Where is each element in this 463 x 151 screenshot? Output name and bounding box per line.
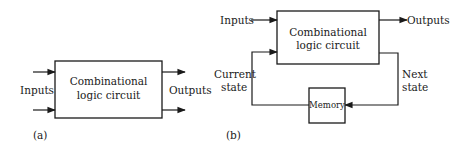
caption-a: (a)	[33, 129, 47, 141]
diagram-canvas: Combinational logic circuit Inputs Outpu…	[0, 0, 463, 151]
outputs-label-a: Outputs	[169, 84, 212, 96]
inputs-label-b: Inputs	[220, 14, 254, 26]
memory-label: Memory	[309, 100, 345, 110]
current-state-label-line2: state	[221, 81, 247, 93]
diagram-b: Combinational logic circuit Inputs Outpu…	[214, 11, 450, 141]
outputs-label-b: Outputs	[407, 14, 450, 26]
block-a-line2: logic circuit	[77, 89, 141, 101]
block-a-line1: Combinational	[70, 75, 148, 87]
block-b-line2: logic circuit	[296, 39, 360, 51]
next-state-label-line2: state	[402, 81, 428, 93]
block-b-line1: Combinational	[289, 26, 367, 38]
diagram-a: Combinational logic circuit Inputs Outpu…	[20, 61, 212, 141]
inputs-label-a: Inputs	[20, 84, 54, 96]
next-state-label-line1: Next	[402, 68, 428, 80]
current-state-label-line1: Current	[214, 68, 257, 80]
caption-b: (b)	[226, 129, 241, 141]
